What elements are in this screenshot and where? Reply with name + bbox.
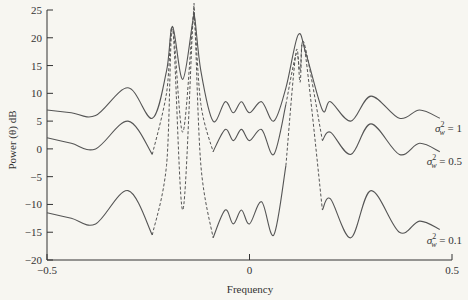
x-axis-title: Frequency	[227, 283, 274, 295]
axes: 2520151050−5−10−15−20−0.500.5	[25, 4, 460, 276]
series-line-solid	[322, 191, 439, 238]
series-line-dashed	[286, 41, 323, 210]
x-tick-label: 0	[247, 264, 253, 276]
y-tick-label: 15	[31, 60, 43, 72]
y-tick-label: 25	[31, 4, 43, 16]
series-line	[47, 13, 440, 122]
series-line-dashed	[152, 9, 213, 155]
series-line-solid	[322, 124, 439, 155]
series-line-solid	[47, 121, 152, 154]
curves	[47, 3, 440, 238]
series-line-solid	[213, 104, 286, 154]
y-tick-label: 10	[31, 87, 43, 99]
y-tick-label: −5	[30, 171, 42, 183]
series-line-dashed	[152, 3, 213, 237]
series-label: σ2w = 1	[435, 120, 462, 137]
series-line-dashed	[286, 41, 323, 140]
y-tick-label: 0	[37, 143, 43, 155]
series-line-solid	[47, 191, 152, 235]
series-labels: σ2w = 1σ2w = 0.5σ2w = 0.1	[427, 120, 463, 249]
series-label: σ2w = 0.1	[427, 232, 462, 249]
series-line-solid	[213, 166, 286, 238]
x-tick-label: 0.5	[445, 264, 459, 276]
y-tick-label: 20	[31, 32, 43, 44]
y-tick-label: −10	[25, 198, 43, 210]
x-tick-label: −0.5	[37, 264, 57, 276]
y-axis-title: Power (θ) dB	[6, 110, 19, 169]
series-label: σ2w = 0.5	[427, 153, 463, 170]
y-tick-label: 5	[37, 115, 43, 127]
power-spectrum-chart: 2520151050−5−10−15−20−0.500.5 σ2w = 1σ2w…	[0, 0, 468, 300]
y-tick-label: −15	[25, 226, 43, 238]
